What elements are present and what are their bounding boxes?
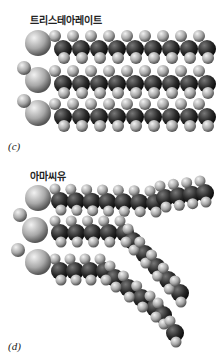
tristearate-model	[17, 30, 216, 132]
molecule-models	[0, 0, 223, 360]
linseed-oil-model	[11, 176, 214, 348]
